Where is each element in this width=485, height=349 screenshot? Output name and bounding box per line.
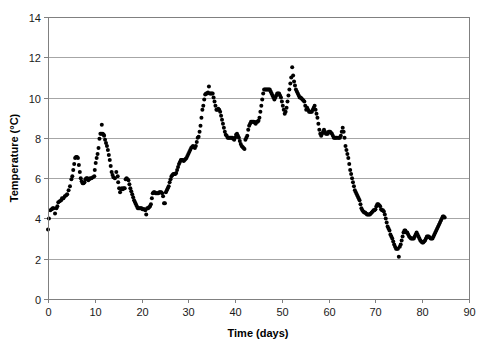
y-tick-label: 0	[35, 294, 41, 306]
data-point	[443, 215, 447, 219]
data-point	[315, 116, 319, 120]
data-point	[316, 122, 320, 126]
data-point	[207, 84, 211, 88]
data-point	[167, 184, 171, 188]
data-point	[102, 134, 106, 138]
data-point	[78, 170, 82, 174]
data-point	[290, 65, 294, 69]
y-tick-label: 2	[35, 254, 41, 266]
data-point	[317, 128, 321, 132]
data-point	[201, 104, 205, 108]
data-point	[72, 162, 76, 166]
x-tick-label: 0	[45, 306, 51, 318]
data-point	[68, 184, 72, 188]
data-point	[344, 148, 348, 152]
data-point	[150, 196, 154, 200]
data-point	[55, 204, 59, 208]
data-point	[213, 104, 217, 108]
data-point	[342, 130, 346, 134]
data-point	[108, 158, 112, 162]
data-point	[286, 94, 290, 98]
data-point	[401, 235, 405, 239]
data-point	[211, 92, 215, 96]
x-tick-label: 70	[369, 306, 381, 318]
data-point	[348, 168, 352, 172]
x-tick-label: 60	[323, 306, 335, 318]
data-point	[106, 148, 110, 152]
data-point	[358, 198, 362, 202]
data-point	[70, 174, 74, 178]
data-point	[65, 192, 69, 196]
data-point	[383, 212, 387, 216]
data-point	[246, 128, 250, 132]
data-point	[315, 112, 319, 116]
data-point	[218, 110, 222, 114]
data-point	[384, 216, 388, 220]
y-tick-label: 6	[35, 173, 41, 185]
data-point	[344, 144, 348, 148]
data-point	[194, 144, 198, 148]
y-axis-ticks: 02468101214	[29, 12, 48, 306]
data-point	[197, 135, 201, 139]
data-point	[292, 79, 296, 83]
x-tick-label: 90	[463, 306, 475, 318]
data-point	[281, 104, 285, 108]
data-point	[199, 124, 203, 128]
data-point	[114, 170, 118, 174]
data-point	[105, 144, 109, 148]
data-point	[351, 180, 355, 184]
data-point	[260, 98, 264, 102]
data-point	[352, 184, 356, 188]
data-point	[97, 137, 101, 141]
data-point	[71, 168, 75, 172]
data-point	[221, 122, 225, 126]
data-point	[279, 96, 283, 100]
data-point	[67, 188, 71, 192]
data-point	[199, 116, 203, 120]
data-point	[242, 147, 246, 151]
data-point	[126, 178, 130, 182]
data-point	[261, 92, 265, 96]
data-point	[76, 156, 80, 160]
x-tick-label: 30	[182, 306, 194, 318]
chart-figure: 02468101214 0102030405060708090 Temperat…	[0, 0, 485, 349]
data-point	[358, 202, 362, 206]
data-point	[198, 130, 202, 134]
data-point	[93, 168, 97, 172]
data-point	[144, 212, 148, 216]
data-point	[212, 96, 216, 100]
data-point	[293, 83, 297, 87]
data-point	[314, 108, 318, 112]
data-point	[96, 152, 100, 156]
data-point	[116, 174, 120, 178]
data-point	[341, 126, 345, 130]
data-point	[350, 176, 354, 180]
data-point	[347, 162, 351, 166]
data-point	[400, 239, 404, 243]
plot-background	[48, 17, 469, 299]
x-tick-label: 20	[136, 306, 148, 318]
y-tick-label: 14	[29, 12, 41, 24]
data-point	[313, 104, 317, 108]
data-point	[257, 116, 261, 120]
data-point	[95, 156, 99, 160]
data-point	[285, 106, 289, 110]
data-point	[349, 172, 353, 176]
data-point	[161, 194, 165, 198]
y-tick-label: 10	[29, 93, 41, 105]
x-tick-label: 50	[276, 306, 288, 318]
data-point	[286, 100, 290, 104]
data-point	[202, 98, 206, 102]
data-point	[280, 100, 284, 104]
data-point	[288, 81, 292, 85]
data-point	[346, 156, 350, 160]
data-point	[343, 136, 347, 140]
y-tick-label: 8	[35, 133, 41, 145]
data-point	[397, 255, 401, 259]
data-point	[127, 182, 131, 186]
data-point	[259, 104, 263, 108]
data-point	[163, 201, 167, 205]
data-point	[220, 118, 224, 122]
x-tick-label: 40	[229, 306, 241, 318]
x-axis-ticks: 0102030405060708090	[45, 299, 475, 318]
